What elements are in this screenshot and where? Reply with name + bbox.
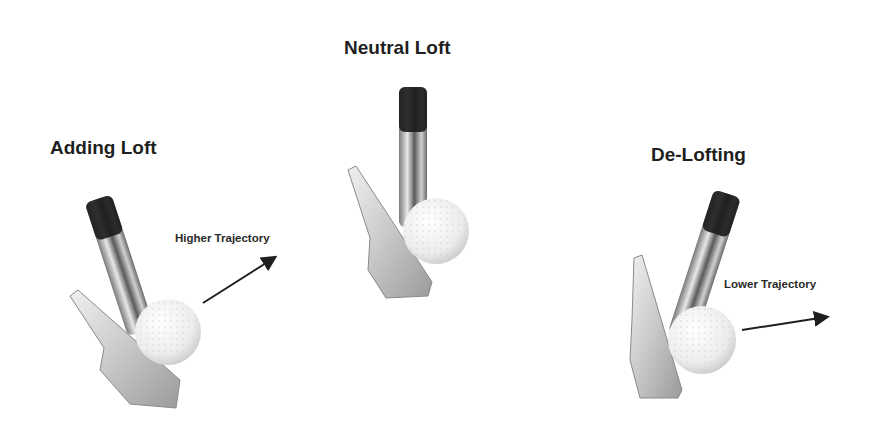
higher-trajectory-arrow-icon: [203, 258, 274, 303]
lower-trajectory-arrow-icon: [742, 317, 826, 330]
lower-trajectory-label: Lower Trajectory: [724, 278, 816, 290]
adding-loft-club: [70, 194, 201, 408]
grip-icon: [701, 189, 741, 238]
neutral-loft-club: [348, 87, 469, 298]
loft-diagram-artwork: [0, 0, 873, 436]
adding-loft-title: Adding Loft: [50, 137, 157, 159]
grip-icon: [399, 87, 427, 132]
grip-icon: [85, 194, 124, 241]
higher-trajectory-label: Higher Trajectory: [175, 232, 270, 244]
neutral-loft-title: Neutral Loft: [344, 37, 451, 59]
de-lofting-club: [630, 189, 741, 398]
de-lofting-title: De-Lofting: [651, 144, 746, 166]
